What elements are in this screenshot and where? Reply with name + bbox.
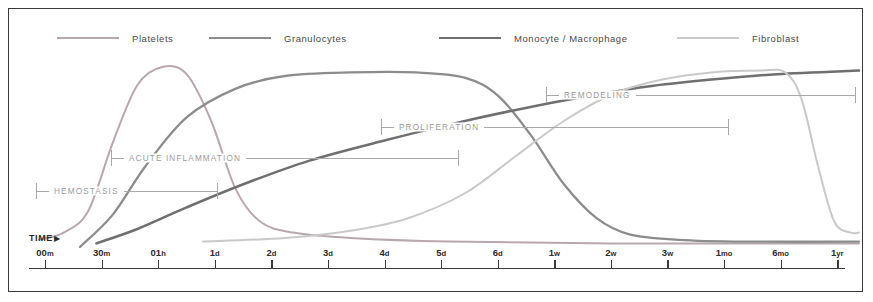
time-axis-title: TIME▶ <box>29 233 61 243</box>
axis-tick <box>328 260 329 269</box>
axis-tick-label: 1w <box>549 247 560 258</box>
axis-tick-label: 6mo <box>772 247 789 258</box>
axis-tick <box>554 260 555 269</box>
axis-tick-label: 01h <box>151 247 166 258</box>
axis-tick <box>45 260 46 269</box>
axis-line <box>29 268 845 269</box>
time-arrow-icon: ▶ <box>54 234 61 243</box>
axis-tick <box>498 260 499 269</box>
phase-label-proliferation: PROLIFERATION <box>394 123 484 132</box>
axis-tick-label: 5d <box>436 247 446 258</box>
phase-proliferation: PROLIFERATION <box>381 119 729 135</box>
axis-tick-label: 2d <box>266 247 276 258</box>
phase-acute-inflammation: ACUTE INFLAMMATION <box>111 150 459 166</box>
phase-cap-right <box>458 150 459 166</box>
axis-tick <box>441 260 442 269</box>
axis-tick <box>158 260 159 269</box>
axis-tick <box>215 260 216 269</box>
phase-label-hemostasis: HEMOSTASIS <box>49 187 124 196</box>
axis-tick-label: 6d <box>493 247 503 258</box>
axis-tick-label: 3w <box>662 247 673 258</box>
axis-tick-label: 1d <box>210 247 220 258</box>
axis-tick <box>611 260 612 269</box>
axis-tick <box>102 260 103 269</box>
phase-hemostasis: HEMOSTASIS <box>36 183 218 199</box>
phase-cap-right <box>217 183 218 199</box>
axis-tick <box>667 260 668 269</box>
phase-cap-right <box>855 87 856 103</box>
axis-tick <box>724 260 725 269</box>
axis-tick <box>837 260 838 269</box>
axis-tick-label: 4d <box>380 247 390 258</box>
time-axis-title-text: TIME <box>29 233 53 243</box>
axis-tick <box>781 260 782 269</box>
axis-tick-label: 1mo <box>716 247 733 258</box>
phase-remodeling: REMODELING <box>546 87 856 103</box>
axis-tick-label: 1yr <box>831 247 843 258</box>
axis-tick-label: 30m <box>93 247 110 258</box>
axis-tick <box>271 260 272 269</box>
axis-tick <box>385 260 386 269</box>
phase-label-acute-inflammation: ACUTE INFLAMMATION <box>124 154 246 163</box>
axis-tick-label: 2w <box>605 247 616 258</box>
time-axis: TIME▶ 00m30m01h1d2d3d4d5d6d1w2w3w1mo6mo1… <box>29 231 845 277</box>
axis-tick-label: 00m <box>36 247 53 258</box>
phase-label-remodeling: REMODELING <box>559 91 636 100</box>
axis-tick-label: 3d <box>323 247 333 258</box>
chart-frame: Platelets Granulocytes Monocyte / Macrop… <box>8 8 863 292</box>
phase-cap-right <box>728 119 729 135</box>
